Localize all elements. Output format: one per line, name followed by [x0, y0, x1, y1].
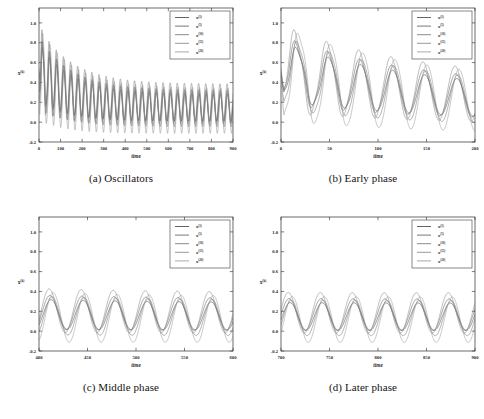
y-tick-label: 1.0 — [30, 230, 36, 235]
x-tick-label: 0 — [280, 146, 283, 151]
x-axis-title: time — [373, 153, 383, 159]
y-tick-label: 0.0 — [30, 120, 36, 125]
x-tick-label: 150 — [423, 146, 431, 151]
x-tick-label: 100 — [375, 146, 383, 151]
y-tick-label: 1.0 — [272, 21, 278, 26]
y-tick-label: -0.2 — [271, 140, 279, 145]
y-axis-title: x(k) — [260, 279, 267, 285]
legend: x(1)x(5)x(10)x(15)x(20) — [412, 11, 472, 59]
x-tick-label: 750 — [326, 355, 334, 360]
x-tick-label: 900 — [230, 146, 238, 151]
y-axis-title: x(k) — [260, 70, 267, 76]
y-tick-label: -0.2 — [29, 349, 37, 354]
y-tick-label: 0.4 — [272, 289, 278, 294]
x-tick-label: 900 — [472, 355, 480, 360]
panel-d-caption: (d) Later phase — [329, 381, 397, 393]
x-tick-label: 0 — [38, 146, 41, 151]
y-tick-label: 0.8 — [30, 249, 36, 254]
x-axis-title: time — [131, 362, 141, 368]
y-tick-label: 0.2 — [30, 100, 36, 105]
x-tick-label: 850 — [423, 355, 431, 360]
x-tick-label: 800 — [375, 355, 383, 360]
svg-text:x(k): x(k) — [260, 70, 267, 76]
panel-a-caption: (a) Oscillators — [89, 172, 153, 184]
y-tick-label: -0.2 — [271, 349, 279, 354]
y-tick-label: 1.0 — [272, 230, 278, 235]
x-axis-title: time — [373, 362, 383, 368]
legend: x(1)x(5)x(10)x(15)x(20) — [412, 220, 472, 268]
panel-a: 01002003004005006007008009001.00.80.60.4… — [0, 0, 242, 209]
x-tick-label: 550 — [181, 355, 189, 360]
plot-d-svg: 7007508008509001.00.80.60.40.20.0-0.2tim… — [245, 209, 481, 379]
panel-b-caption: (b) Early phase — [329, 172, 398, 184]
y-tick-label: 0.6 — [272, 269, 278, 274]
panel-d: 7007508008509001.00.80.60.40.20.0-0.2tim… — [242, 209, 484, 419]
y-tick-label: 0.4 — [30, 80, 36, 85]
panel-b: 0501001502001.00.80.60.40.20.0-0.2timex(… — [242, 0, 484, 209]
plot-a: 01002003004005006007008009001.00.80.60.4… — [3, 0, 239, 170]
y-tick-label: 0.6 — [272, 60, 278, 65]
x-tick-label: 200 — [472, 146, 480, 151]
plot-a-svg: 01002003004005006007008009001.00.80.60.4… — [3, 0, 239, 170]
y-tick-label: 0.2 — [30, 309, 36, 314]
plot-b-svg: 0501001502001.00.80.60.40.20.0-0.2timex(… — [245, 0, 481, 170]
x-tick-label: 400 — [122, 146, 130, 151]
x-axis-title: time — [131, 153, 141, 159]
svg-text:x(k): x(k) — [18, 70, 25, 76]
y-axis-title: x(k) — [18, 279, 25, 285]
y-tick-label: 0.8 — [272, 40, 278, 45]
plot-b: 0501001502001.00.80.60.40.20.0-0.2timex(… — [245, 0, 481, 170]
x-tick-label: 300 — [100, 146, 108, 151]
y-tick-label: 0.4 — [30, 289, 36, 294]
figure-panel-grid: 01002003004005006007008009001.00.80.60.4… — [0, 0, 484, 419]
y-tick-label: 0.6 — [30, 60, 36, 65]
x-tick-label: 450 — [84, 355, 92, 360]
x-tick-label: 800 — [208, 146, 216, 151]
panel-c: 4004505005506001.00.80.60.40.20.0-0.2tim… — [0, 209, 242, 419]
x-tick-label: 200 — [79, 146, 87, 151]
y-tick-label: -0.2 — [29, 140, 37, 145]
svg-text:x(k): x(k) — [18, 279, 25, 285]
x-tick-label: 700 — [186, 146, 194, 151]
y-tick-label: 1.0 — [30, 21, 36, 26]
y-tick-label: 0.4 — [272, 80, 278, 85]
y-tick-label: 0.0 — [272, 120, 278, 125]
y-tick-label: 0.8 — [272, 249, 278, 254]
y-tick-label: 0.8 — [30, 40, 36, 45]
y-tick-label: 0.6 — [30, 269, 36, 274]
y-tick-label: 0.2 — [272, 309, 278, 314]
x-tick-label: 600 — [230, 355, 238, 360]
plot-c: 4004505005506001.00.80.60.40.20.0-0.2tim… — [3, 209, 239, 379]
svg-text:x(k): x(k) — [260, 279, 267, 285]
plot-c-svg: 4004505005506001.00.80.60.40.20.0-0.2tim… — [3, 209, 239, 379]
x-tick-label: 700 — [278, 355, 286, 360]
x-tick-label: 500 — [143, 146, 151, 151]
x-tick-label: 50 — [327, 146, 332, 151]
legend: x(1)x(5)x(10)x(15)x(20) — [170, 11, 230, 59]
y-tick-label: 0.2 — [272, 100, 278, 105]
x-tick-label: 600 — [165, 146, 173, 151]
panel-c-caption: (c) Middle phase — [83, 381, 159, 393]
x-tick-label: 400 — [36, 355, 44, 360]
y-tick-label: 0.0 — [30, 329, 36, 334]
x-tick-label: 100 — [57, 146, 65, 151]
legend: x(1)x(5)x(10)x(15)x(20) — [170, 220, 230, 268]
y-axis-title: x(k) — [18, 70, 25, 76]
y-tick-label: 0.0 — [272, 329, 278, 334]
x-tick-label: 500 — [133, 355, 141, 360]
plot-d: 7007508008509001.00.80.60.40.20.0-0.2tim… — [245, 209, 481, 379]
